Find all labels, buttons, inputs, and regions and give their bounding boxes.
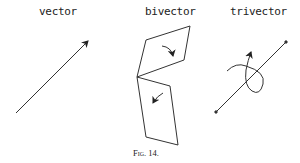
figure-caption: Fig. 14. xyxy=(133,148,159,158)
geometric-algebra-diagram xyxy=(0,0,300,163)
trivector-symbol xyxy=(215,41,287,113)
bivector-planes xyxy=(137,26,190,145)
vector-arrow xyxy=(16,41,88,113)
